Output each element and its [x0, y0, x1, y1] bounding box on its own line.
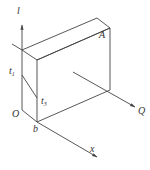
box-axes-diagram: l A t1 t3 O b Q x [0, 0, 150, 170]
corner-tick [12, 44, 22, 50]
label-O: O [12, 108, 19, 119]
label-t3: t3 [41, 95, 47, 107]
box-left-bottom-edge [22, 110, 37, 122]
x-axis [37, 122, 97, 157]
box-front-face [37, 28, 110, 122]
label-A: A [98, 29, 106, 40]
box-top-face [22, 18, 110, 60]
label-b: b [33, 123, 38, 134]
label-l: l [17, 5, 20, 16]
label-Q: Q [138, 105, 146, 116]
label-t1: t1 [9, 65, 15, 77]
label-x: x [89, 143, 95, 154]
t1-t3-line [22, 75, 37, 98]
